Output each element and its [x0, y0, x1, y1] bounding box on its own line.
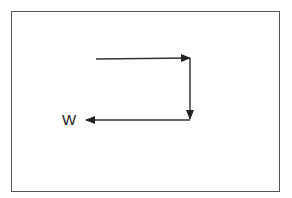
- arrow-right-icon: [96, 58, 190, 59]
- arrow-diagram: [0, 0, 292, 198]
- resultant-label: W: [62, 112, 76, 127]
